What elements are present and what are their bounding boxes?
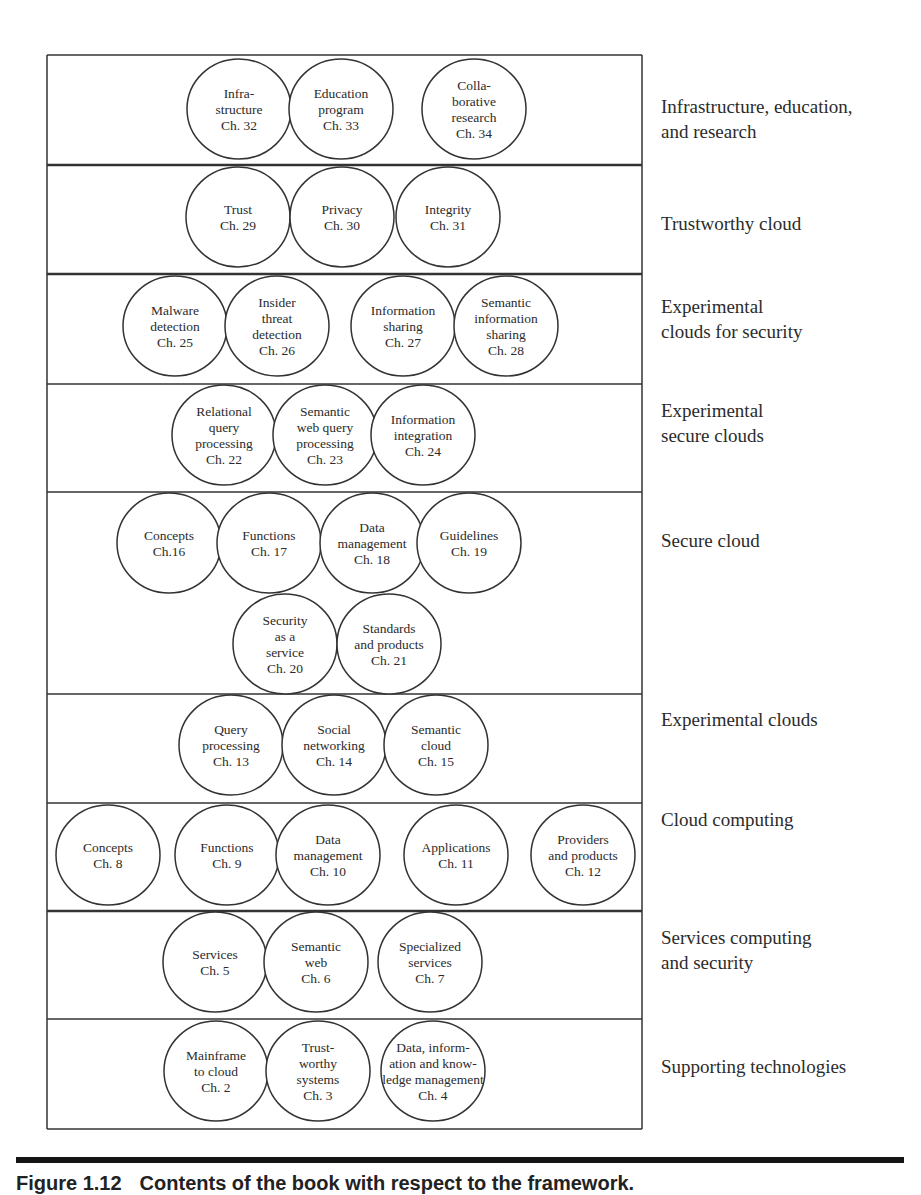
chapter-node: InsiderthreatdetectionCh. 26 bbox=[225, 276, 329, 376]
chapter-circle bbox=[172, 385, 276, 485]
chapter-label: IntegrityCh. 31 bbox=[425, 202, 472, 233]
chapter-circle bbox=[225, 276, 329, 376]
chapter-node: MalwaredetectionCh. 25 bbox=[123, 276, 227, 376]
chapter-node: IntegrityCh. 31 bbox=[396, 167, 500, 267]
chapter-node: SemanticcloudCh. 15 bbox=[384, 695, 488, 795]
chapter-node: ServicesCh. 5 bbox=[163, 912, 267, 1012]
band-label: Experimental clouds for security bbox=[661, 294, 802, 344]
band-label: Experimental clouds bbox=[661, 707, 818, 732]
chapter-circle bbox=[381, 1021, 485, 1121]
chapter-node: Colla-borativeresearchCh. 34 bbox=[422, 59, 526, 159]
chapter-node: SemanticinformationsharingCh. 28 bbox=[454, 276, 558, 376]
chapter-node: SocialnetworkingCh. 14 bbox=[282, 695, 386, 795]
chapter-label: MalwaredetectionCh. 25 bbox=[150, 303, 200, 350]
band-4: RelationalqueryprocessingCh. 22Semanticw… bbox=[47, 384, 642, 492]
band-8: ServicesCh. 5SemanticwebCh. 6Specialized… bbox=[47, 911, 642, 1019]
chapter-node: Data, inform-ation and know-ledge manage… bbox=[381, 1021, 485, 1121]
chapter-node: DatamanagementCh. 10 bbox=[276, 805, 380, 905]
band-label: Experimental secure clouds bbox=[661, 398, 764, 448]
chapter-circle bbox=[163, 912, 267, 1012]
chapter-node: InformationsharingCh. 27 bbox=[351, 276, 455, 376]
chapter-label: Colla-borativeresearchCh. 34 bbox=[452, 78, 497, 141]
chapter-circle bbox=[56, 805, 160, 905]
chapter-label: InsiderthreatdetectionCh. 26 bbox=[252, 295, 302, 358]
figure-caption-text: Contents of the book with respect to the… bbox=[140, 1172, 635, 1194]
chapter-circle bbox=[117, 493, 221, 593]
chapter-circle bbox=[454, 276, 558, 376]
chapter-node: FunctionsCh. 17 bbox=[217, 493, 321, 593]
chapter-node: SpecializedservicesCh. 7 bbox=[378, 912, 482, 1012]
chapter-circle bbox=[404, 805, 508, 905]
chapter-circle bbox=[175, 805, 279, 905]
chapter-node: GuidelinesCh. 19 bbox=[417, 493, 521, 593]
chapter-node: Trust-worthysystemsCh. 3 bbox=[266, 1021, 370, 1121]
band-2: TrustCh. 29PrivacyCh. 30IntegrityCh. 31 bbox=[47, 165, 642, 274]
chapter-circle bbox=[233, 594, 337, 694]
band-3: MalwaredetectionCh. 25Insiderthreatdetec… bbox=[47, 274, 642, 384]
chapter-label: PrivacyCh. 30 bbox=[321, 202, 362, 233]
chapter-label: TrustCh. 29 bbox=[220, 202, 256, 233]
band-label: Secure cloud bbox=[661, 528, 760, 553]
chapter-node: Providersand productsCh. 12 bbox=[531, 805, 635, 905]
chapter-node: QueryprocessingCh. 13 bbox=[179, 695, 283, 795]
band-1: Infra-structureCh. 32EducationprogramCh.… bbox=[47, 55, 642, 165]
chapter-circle bbox=[273, 385, 377, 485]
chapter-node: SemanticwebCh. 6 bbox=[264, 912, 368, 1012]
band-label: Infrastructure, education, and research bbox=[661, 94, 853, 144]
chapter-circle bbox=[266, 1021, 370, 1121]
band-5: ConceptsCh.16FunctionsCh. 17Datamanageme… bbox=[47, 492, 642, 694]
band-label: Services computing and security bbox=[661, 925, 811, 975]
figure-number: Figure 1.12 bbox=[16, 1172, 122, 1194]
figure-caption: Figure 1.12Contents of the book with res… bbox=[16, 1172, 634, 1195]
chapter-circle bbox=[417, 493, 521, 593]
chapter-node: Semanticweb queryprocessingCh. 23 bbox=[273, 385, 377, 485]
band-label: Supporting technologies bbox=[661, 1054, 846, 1079]
chapter-node: RelationalqueryprocessingCh. 22 bbox=[172, 385, 276, 485]
chapter-circle bbox=[422, 59, 526, 159]
chapter-node: EducationprogramCh. 33 bbox=[289, 59, 393, 159]
chapter-circle bbox=[396, 167, 500, 267]
chapter-node: DatamanagementCh. 18 bbox=[320, 493, 424, 593]
chapter-node: Mainframeto cloudCh. 2 bbox=[164, 1021, 268, 1121]
band-label: Trustworthy cloud bbox=[661, 211, 801, 236]
chapter-node: ApplicationsCh. 11 bbox=[404, 805, 508, 905]
band-7: ConceptsCh. 8FunctionsCh. 9Datamanagemen… bbox=[47, 803, 642, 911]
chapter-node: InformationintegrationCh. 24 bbox=[371, 385, 475, 485]
chapter-node: ConceptsCh.16 bbox=[117, 493, 221, 593]
chapter-node: Standardsand productsCh. 21 bbox=[337, 594, 441, 694]
chapter-circle bbox=[186, 167, 290, 267]
chapter-node: TrustCh. 29 bbox=[186, 167, 290, 267]
chapter-node: Infra-structureCh. 32 bbox=[187, 59, 291, 159]
band-6: QueryprocessingCh. 13SocialnetworkingCh.… bbox=[47, 694, 642, 803]
chapter-node: FunctionsCh. 9 bbox=[175, 805, 279, 905]
chapter-node: PrivacyCh. 30 bbox=[290, 167, 394, 267]
band-label: Cloud computing bbox=[661, 807, 793, 832]
chapter-node: Securityas aserviceCh. 20 bbox=[233, 594, 337, 694]
chapter-label: Securityas aserviceCh. 20 bbox=[263, 613, 308, 676]
chapter-circle bbox=[217, 493, 321, 593]
chapter-circle bbox=[290, 167, 394, 267]
band-9: Mainframeto cloudCh. 2Trust-worthysystem… bbox=[47, 1019, 642, 1129]
chapter-node: ConceptsCh. 8 bbox=[56, 805, 160, 905]
caption-rule bbox=[16, 1157, 904, 1163]
